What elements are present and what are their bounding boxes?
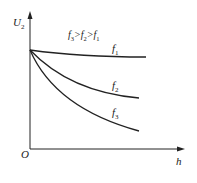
frequency-annotation: f3>f2>f1 — [68, 29, 100, 42]
y-axis-arrow-icon — [28, 11, 33, 19]
curve-f1-label: f1 — [112, 42, 119, 57]
curve-f3 — [30, 50, 139, 131]
curve-f2-label: f2 — [112, 79, 119, 94]
curve-f1 — [30, 50, 146, 57]
origin-label: O — [21, 148, 29, 160]
x-axis-label: h — [176, 155, 182, 167]
curve-f3-label: f3 — [112, 106, 119, 121]
chart: U2 h O f3>f2>f1 f1 f2 f3 — [0, 0, 197, 183]
y-axis-label: U2 — [13, 16, 25, 31]
x-axis-arrow-icon — [177, 147, 185, 152]
